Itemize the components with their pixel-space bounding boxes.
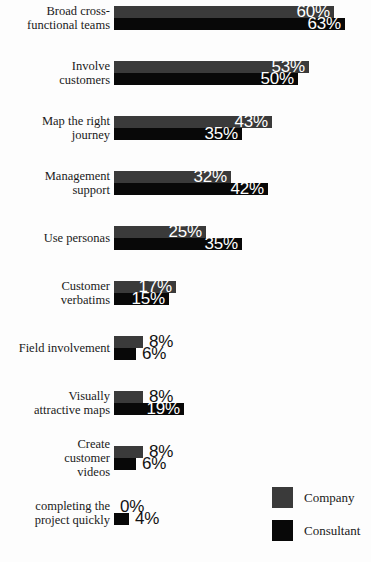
category-label-line: journey — [0, 128, 110, 142]
bar-consultant[interactable] — [114, 348, 136, 360]
category-label: completing theproject quickly — [0, 499, 110, 527]
category-label: Broad cross-functional teams — [0, 4, 110, 32]
category-label: Customerverbatims — [0, 279, 110, 307]
bar-value-label: 35% — [200, 124, 238, 143]
category-label-line: Broad cross- — [0, 4, 110, 18]
bar-value-label: 50% — [256, 69, 294, 88]
legend-label: Company — [304, 489, 355, 506]
category-label: Createcustomervideos — [0, 437, 110, 479]
category-label-line: Visually — [0, 389, 110, 403]
bar-value-label: 35% — [200, 234, 238, 253]
category-label-line: Use personas — [0, 231, 110, 245]
bar-company[interactable] — [114, 446, 143, 458]
category-label-line: Management — [0, 169, 110, 183]
category-label-line: functional teams — [0, 18, 110, 32]
bar-company[interactable] — [114, 391, 143, 403]
legend-swatch-icon — [272, 487, 293, 508]
category-label-line: Customer — [0, 279, 110, 293]
category-label-line: Field involvement — [0, 341, 110, 355]
legend-swatch-icon — [272, 520, 293, 541]
category-label-line: verbatims — [0, 293, 110, 307]
category-label: Involvecustomers — [0, 59, 110, 87]
legend-item[interactable]: Consultant — [272, 520, 371, 542]
bar-chart: Broad cross-functional teams60%63%Involv… — [0, 0, 371, 562]
category-label-line: attractive maps — [0, 403, 110, 417]
bar-value-label: 4% — [135, 509, 159, 528]
bar-company[interactable] — [114, 336, 143, 348]
category-label-line: customer — [0, 451, 110, 465]
bar-value-label: 6% — [142, 344, 166, 363]
category-label-line: project quickly — [0, 513, 110, 527]
category-label-line: Map the right — [0, 114, 110, 128]
bar-consultant[interactable] — [114, 458, 136, 470]
bar-consultant[interactable] — [114, 513, 129, 525]
category-label-line: support — [0, 183, 110, 197]
bar-value-label: 19% — [142, 399, 180, 418]
category-label: Field involvement — [0, 341, 110, 355]
category-label-line: completing the — [0, 499, 110, 513]
category-label-line: customers — [0, 73, 110, 87]
bar-value-label: 6% — [142, 454, 166, 473]
category-label: Visuallyattractive maps — [0, 389, 110, 417]
category-label: Use personas — [0, 231, 110, 245]
category-label-line: videos — [0, 465, 110, 479]
legend-item[interactable]: Company — [272, 487, 371, 509]
category-label-line: Involve — [0, 59, 110, 73]
bar-value-label: 15% — [127, 289, 165, 308]
bar-value-label: 63% — [303, 14, 341, 33]
category-label-line: Create — [0, 437, 110, 451]
category-label: Map the rightjourney — [0, 114, 110, 142]
legend-label: Consultant — [304, 522, 360, 539]
category-label: Managementsupport — [0, 169, 110, 197]
bar-value-label: 42% — [226, 179, 264, 198]
